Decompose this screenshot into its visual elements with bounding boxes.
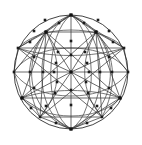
center-hub xyxy=(69,70,72,73)
graph-node xyxy=(70,104,73,107)
northeast-hub xyxy=(94,30,97,33)
graph-node xyxy=(108,56,111,59)
east-hub xyxy=(118,96,121,99)
graph-node xyxy=(57,51,60,54)
graph-node xyxy=(110,107,113,110)
graph-node xyxy=(83,22,86,25)
graph-node xyxy=(70,89,73,92)
graph-node xyxy=(54,92,57,95)
graph-node xyxy=(33,30,36,33)
graph-node xyxy=(88,71,91,74)
graph-node xyxy=(53,71,56,74)
south-pole-hub xyxy=(69,127,72,130)
graph-node xyxy=(44,19,47,22)
graph-node xyxy=(108,30,111,33)
graph-node xyxy=(33,87,36,90)
graph-node xyxy=(97,19,100,22)
graph-node xyxy=(101,116,104,119)
north-pole-hub xyxy=(69,13,72,16)
graph-node xyxy=(112,41,115,44)
graph-node xyxy=(17,47,20,50)
graph-node xyxy=(87,92,90,95)
graph-node xyxy=(111,71,114,74)
northwest-hub xyxy=(44,30,47,33)
graph-node xyxy=(56,81,59,84)
graph-node xyxy=(33,56,36,59)
graph-node xyxy=(84,51,87,54)
graph-node xyxy=(39,116,42,119)
graph-node xyxy=(86,122,89,125)
graph-node xyxy=(45,105,48,108)
graph-node xyxy=(70,54,73,57)
graph-node xyxy=(127,71,130,74)
graph-node xyxy=(55,62,58,65)
graph-node xyxy=(13,71,16,74)
graph-node xyxy=(85,81,88,84)
graph-node xyxy=(108,87,111,90)
graph-node xyxy=(70,40,73,43)
graph-node xyxy=(99,71,102,74)
graph-node xyxy=(55,122,58,125)
graph-node xyxy=(86,62,89,65)
graph-node xyxy=(30,107,33,110)
graph-node xyxy=(29,71,32,74)
graph-node xyxy=(123,47,126,50)
graph-node xyxy=(96,105,99,108)
graph-node xyxy=(42,71,45,74)
graph-node xyxy=(29,41,32,44)
figure-root xyxy=(0,0,142,145)
graph-node xyxy=(58,22,61,25)
spherical-graph-drawing xyxy=(0,0,142,145)
west-hub xyxy=(20,96,23,99)
